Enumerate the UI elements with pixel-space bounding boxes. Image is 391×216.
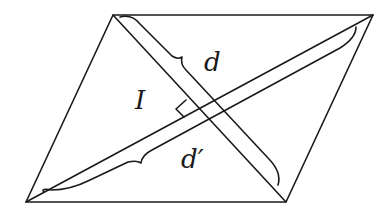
label-d: d — [204, 47, 221, 77]
label-d-prime: d′ — [181, 144, 204, 174]
right-angle-marker — [176, 100, 186, 117]
parallelogram-diagram: d d′ I — [0, 0, 391, 216]
label-i: I — [134, 85, 146, 115]
